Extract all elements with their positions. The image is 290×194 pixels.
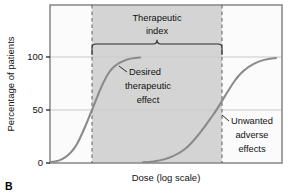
adverse-effects-label-line3: effects xyxy=(238,144,266,154)
desired-effect-label-line1: Desired xyxy=(129,67,161,77)
therapeutic-index-label-line1: Therapeutic xyxy=(132,13,181,23)
ytick-label-100: 100 xyxy=(27,51,43,62)
x-axis-title: Dose (log scale) xyxy=(132,172,201,183)
therapeutic-index-label-line2: index xyxy=(146,26,169,36)
adverse-effects-label-line1: Unwanted xyxy=(231,116,273,126)
ytick-label-0: 0 xyxy=(38,157,43,168)
desired-effect-label-line3: effect xyxy=(137,95,160,105)
panel-letter-b: B xyxy=(5,180,13,192)
ytick-label-50: 50 xyxy=(32,104,43,115)
y-axis-title: Percentage of patients xyxy=(5,36,16,131)
desired-effect-label-line2: therapeutic xyxy=(125,81,171,91)
figure-panel-b: 0 50 100 Percentage of patients Dose (lo… xyxy=(0,0,290,194)
adverse-effects-label-line2: adverse xyxy=(235,130,268,140)
